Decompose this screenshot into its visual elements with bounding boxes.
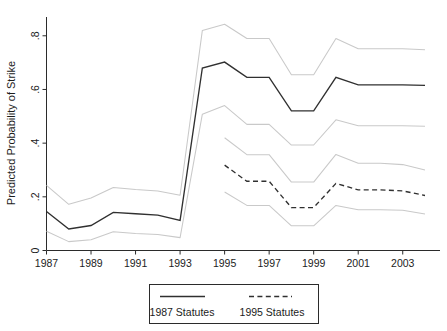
y-axis-tick-label: .8	[29, 31, 41, 40]
y-axis-tick-label: .2	[29, 192, 41, 201]
x-axis-tick-label: 1999	[302, 257, 326, 269]
series-line-1995-statutes	[225, 165, 425, 207]
y-axis-tick-label: .4	[29, 139, 41, 148]
confidence-band-line	[225, 138, 425, 182]
x-axis-tick-label: 1993	[168, 257, 192, 269]
y-axis-tick-label: .6	[29, 85, 41, 94]
legend-label-1987-statutes: 1987 Statutes	[150, 306, 215, 318]
x-axis-tick-label: 1987	[35, 257, 59, 269]
legend-label-1995-statutes: 1995 Statutes	[240, 306, 305, 318]
x-axis-tick-label: 1991	[124, 257, 148, 269]
x-axis-tick-label: 2003	[391, 257, 415, 269]
confidence-interval-bands	[47, 24, 426, 241]
series-line-1987-statutes	[47, 62, 426, 229]
x-axis-tick-labels: 198719891991199319951997199920012003	[35, 257, 415, 269]
chart-legend: 1987 Statutes 1995 Statutes	[150, 285, 319, 324]
line-chart: 0.2.4.6.8 198719891991199319951997199920…	[0, 0, 447, 331]
x-axis-ticks	[47, 251, 403, 255]
confidence-band-line	[225, 192, 425, 226]
y-axis-ticks	[43, 36, 47, 251]
chart-figure: 0.2.4.6.8 198719891991199319951997199920…	[0, 0, 447, 331]
x-axis-tick-label: 1997	[257, 257, 281, 269]
y-axis-tick-labels: 0.2.4.6.8	[29, 31, 41, 253]
x-axis-tick-label: 1989	[79, 257, 103, 269]
data-series-lines	[47, 62, 426, 229]
x-axis-tick-label: 2001	[347, 257, 371, 269]
y-axis-tick-label: 0	[29, 247, 41, 253]
confidence-band-line	[47, 106, 426, 242]
y-axis-title: Predicted Probability of Strike	[5, 61, 17, 205]
x-axis-tick-label: 1995	[213, 257, 237, 269]
